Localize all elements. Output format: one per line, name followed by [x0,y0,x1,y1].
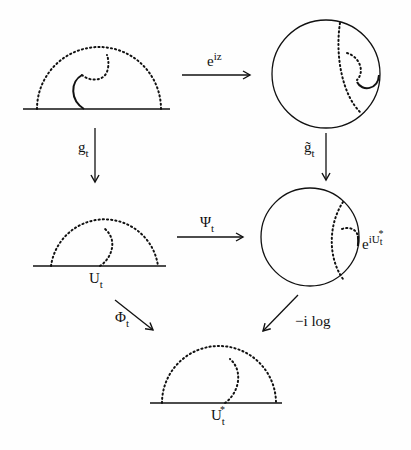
dotted-hook [347,53,361,80]
dotted-arc [332,202,343,279]
dotted-semicircle [37,47,161,109]
top-left-half-plane [23,47,170,109]
label-gt: gt [78,140,89,155]
solid-slit-curve [73,75,84,109]
label-gtilde: g̃t [304,140,315,155]
label-Ut: Ut [89,271,103,286]
dotted-hook [82,55,108,80]
arrow-neg-i-log [263,295,298,331]
dotted-curve [100,229,112,266]
dotted-semicircle [51,219,158,266]
dotted-curve [225,359,238,403]
label-psi: Ψt [200,215,214,230]
mid-right-disk [261,188,359,286]
bottom-half-plane [150,346,282,403]
label-eiUt-star: eiUt* [362,237,387,252]
top-right-disk [272,20,380,128]
unit-circle [272,20,380,128]
label-eiz: eiz [207,54,222,69]
mid-left-half-plane [33,219,166,266]
unit-circle [261,188,359,286]
label-phi: Φt [115,310,129,325]
dotted-semicircle [162,346,276,403]
dotted-hook [342,228,358,238]
label-Ut-star: Ut* [211,408,230,423]
label-neg-i-log: −i log [295,314,331,329]
dotted-arc [338,23,361,113]
